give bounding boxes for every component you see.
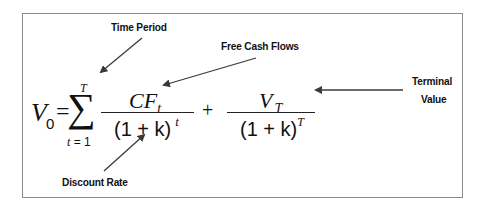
terminal-value-label-line2: Value — [421, 93, 447, 105]
lhs-subscript: 0 — [46, 115, 54, 132]
time-period-label: Time Period — [111, 21, 167, 33]
plus-sign: + — [202, 99, 213, 122]
lhs-value-symbol: V — [31, 98, 47, 128]
terminal-value-label-line1: Terminal — [412, 75, 452, 87]
term1-numerator: CFt — [129, 88, 161, 114]
time-period-arrow — [101, 38, 142, 72]
term2-denominator: (1 + k)T — [240, 117, 304, 142]
term1-fraction-bar — [101, 112, 194, 113]
discount-rate-label: Discount Rate — [62, 176, 128, 188]
term2-numerator: VT — [259, 88, 282, 114]
summation-icon: ∑ — [67, 88, 96, 128]
sum-lower-limit: t = 1 — [67, 135, 91, 150]
term2-fraction-bar — [227, 112, 315, 113]
free-cash-flows-label: Free Cash Flows — [221, 40, 299, 52]
free-cash-flows-arrow — [164, 58, 256, 85]
term1-denominator: (1 + k)t — [114, 117, 179, 142]
